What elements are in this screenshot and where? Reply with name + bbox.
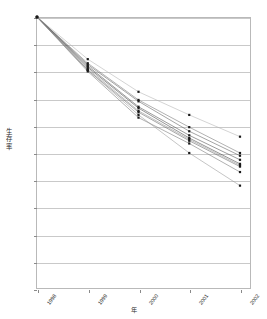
data-point-marker — [137, 100, 139, 102]
data-point-marker — [239, 136, 241, 138]
data-point-marker — [239, 159, 241, 161]
survival-rate-line-chart: 生 存 率 100.0%90.0%80.0%70.0%60.0%50.0%40.… — [0, 0, 267, 319]
data-point-marker — [239, 166, 241, 168]
data-point-marker — [87, 69, 89, 71]
x-axis-title: 年 — [0, 306, 267, 313]
data-point-marker — [188, 142, 190, 144]
data-point-marker — [239, 171, 241, 173]
data-point-marker — [137, 117, 139, 119]
data-point-marker — [137, 111, 139, 113]
series-line — [37, 17, 240, 153]
data-point-marker — [188, 130, 190, 132]
data-point-marker — [188, 126, 190, 128]
data-point-marker — [188, 134, 190, 136]
series-line — [37, 17, 240, 156]
data-point-marker — [36, 16, 38, 18]
data-point-marker — [188, 140, 190, 142]
data-point-marker — [239, 152, 241, 154]
data-point-marker — [239, 185, 241, 187]
series-line — [37, 17, 240, 164]
data-point-marker — [188, 152, 190, 154]
series-layer — [0, 0, 267, 319]
series-line — [37, 17, 240, 172]
data-point-marker — [239, 155, 241, 157]
data-point-marker — [188, 114, 190, 116]
series-line — [37, 17, 240, 160]
data-point-marker — [137, 114, 139, 116]
data-point-marker — [137, 91, 139, 93]
data-point-marker — [87, 58, 89, 60]
data-point-marker — [137, 107, 139, 109]
